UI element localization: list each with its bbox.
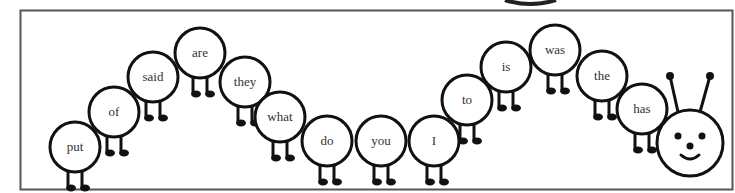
foot [66, 185, 76, 192]
foot [271, 155, 281, 162]
segment: is [481, 42, 531, 92]
foot [560, 88, 570, 95]
foot [633, 147, 643, 154]
foot [647, 147, 657, 154]
foot [497, 105, 507, 112]
foot [191, 91, 201, 98]
segment-word: said [143, 69, 164, 84]
foot [318, 179, 328, 186]
foot [425, 179, 435, 186]
antenna [670, 76, 678, 112]
foot [105, 150, 115, 157]
foot [372, 179, 382, 186]
segment-word: put [67, 139, 84, 154]
antenna-tip [666, 72, 674, 80]
segment-word: is [502, 59, 511, 74]
antenna-tip [706, 72, 714, 80]
segment: of [89, 87, 139, 137]
segment: said [128, 52, 178, 102]
foot [332, 179, 342, 186]
segment-word: has [633, 101, 650, 116]
segment-word: to [462, 92, 472, 107]
right-eye-icon [699, 133, 706, 140]
segment: put [50, 122, 100, 172]
foot [546, 88, 556, 95]
cropped-arc-top [505, 0, 556, 4]
caterpillar-body: putofsaidaretheywhatdoyouItoiswasthehas [50, 25, 667, 192]
foot [439, 179, 449, 186]
foot [119, 150, 129, 157]
segment: are [175, 28, 225, 78]
segment: do [302, 116, 352, 166]
nose-icon [687, 143, 694, 150]
segment: I [409, 116, 459, 166]
segment-word: I [432, 133, 436, 148]
foot [236, 120, 246, 127]
foot [158, 115, 168, 122]
segment: has [617, 84, 667, 134]
foot [511, 105, 521, 112]
segment-word: was [545, 42, 565, 57]
antenna [700, 76, 710, 112]
segment: to [442, 75, 492, 125]
foot [80, 185, 90, 192]
segment-word: do [321, 133, 334, 148]
segment: was [530, 25, 580, 75]
segment-word: of [109, 104, 121, 119]
foot [386, 179, 396, 186]
caterpillar-canvas: putofsaidaretheywhatdoyouItoiswasthehas [0, 0, 735, 193]
caterpillar-diagram: putofsaidaretheywhatdoyouItoiswasthehas [0, 0, 735, 193]
foot [144, 115, 154, 122]
segment-word: you [371, 133, 391, 148]
left-eye-icon [675, 133, 682, 140]
foot [593, 114, 603, 121]
segment-word: are [192, 45, 208, 60]
caterpillar-head [657, 72, 723, 176]
segment-word: what [267, 109, 293, 124]
foot [472, 138, 482, 145]
segment: what [255, 92, 305, 142]
segment: the [577, 51, 627, 101]
foot [285, 155, 295, 162]
segment: you [356, 116, 406, 166]
segment-word: the [594, 68, 610, 83]
segment-word: they [234, 74, 257, 89]
foot [607, 114, 617, 121]
foot [205, 91, 215, 98]
